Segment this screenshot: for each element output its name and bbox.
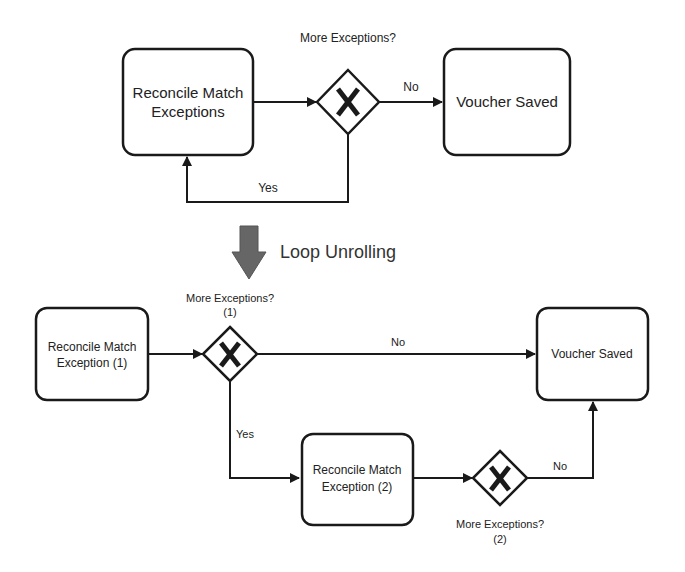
task1-label-line1: Reconcile Match <box>48 340 137 354</box>
loop-unrolling-transform: Loop Unrolling <box>232 226 396 279</box>
task2-label-line1: Reconcile Match <box>313 463 402 477</box>
gateway-label: More Exceptions? <box>300 31 396 45</box>
task-reconcile-match-exceptions[interactable] <box>123 49 253 155</box>
gateway2-label-line2: (2) <box>493 533 506 545</box>
edge-no1-label: No <box>391 336 405 348</box>
edge-no-label: No <box>403 80 419 94</box>
edge-yes-label: Yes <box>258 181 278 195</box>
top-diagram: Reconcile Match Exceptions More Exceptio… <box>123 31 570 202</box>
bottom-diagram: Reconcile Match Exception (1) More Excep… <box>36 292 648 545</box>
down-arrow-icon <box>232 226 266 279</box>
edge-no2-label: No <box>553 460 567 472</box>
gateway2-label-line1: More Exceptions? <box>456 518 544 530</box>
task-label-line1: Reconcile Match <box>133 84 244 101</box>
transform-label: Loop Unrolling <box>280 242 396 262</box>
gateway1-label-line1: More Exceptions? <box>186 292 274 304</box>
end-label: Voucher Saved <box>456 93 558 110</box>
task2-label-line2: Exception (2) <box>322 480 393 494</box>
diagram-canvas: Reconcile Match Exceptions More Exceptio… <box>0 0 685 572</box>
edge-yes1-label: Yes <box>236 428 254 440</box>
task-reconcile-match-exception-1[interactable] <box>36 308 148 400</box>
gateway1-label-line2: (1) <box>223 306 236 318</box>
task1-label-line2: Exception (1) <box>57 356 128 370</box>
end-bottom-label: Voucher Saved <box>551 347 632 361</box>
task-label-line2: Exceptions <box>151 103 224 120</box>
